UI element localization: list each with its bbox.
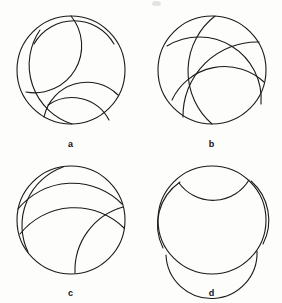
disk-panel-a: a [0,0,141,151]
disk-diagram-b [141,0,282,151]
disk-panel-b: b [141,0,282,151]
scan-artifact-speck [152,1,161,6]
disk-diagram-a [0,0,141,151]
panel-label-a: a [0,139,141,149]
panel-label-d: d [141,288,282,298]
arc-d-3 [251,181,269,244]
disk-panel-d: d [141,152,282,303]
arc-b-1 [188,16,215,124]
panel-label-c: c [0,288,141,298]
arc-c-2 [18,183,122,209]
disk-panel-c: c [0,152,141,303]
arc-a-2 [34,21,114,44]
arc-c-4 [20,208,124,234]
arc-c-3 [75,207,123,273]
disk-diagram-c [0,152,141,303]
disk-diagram-d [141,152,282,303]
arc-b-3 [183,42,259,117]
boundary-circle-a [17,16,125,124]
boundary-circle-d [158,166,266,274]
boundary-circle-b [158,16,266,124]
arc-a-3 [29,30,72,124]
arc-d-1 [179,180,249,200]
figure-grid: a b c d [0,0,282,303]
boundary-circle-c [17,166,125,274]
arc-a-1 [26,16,82,93]
panel-label-b: b [141,139,282,149]
arc-a-4 [44,82,118,117]
